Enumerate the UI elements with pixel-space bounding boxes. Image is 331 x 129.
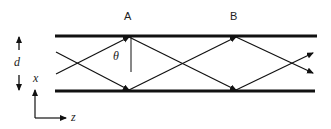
point-b-label: B <box>230 11 237 22</box>
ray-1-seg-3 <box>236 53 313 90</box>
thickness-label: d <box>14 56 20 68</box>
point-a-label: A <box>124 11 131 22</box>
angle-label: θ <box>113 50 119 62</box>
waveguide-diagram <box>0 0 331 129</box>
axis-x-label: x <box>33 72 38 84</box>
axis-z-label: z <box>71 111 76 123</box>
ray-2-seg-3 <box>236 37 313 73</box>
